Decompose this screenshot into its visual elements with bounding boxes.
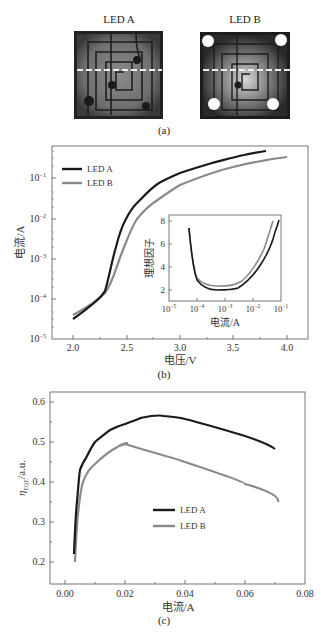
- inset-xtick: 10−2: [246, 303, 261, 314]
- c-series-led-b: [75, 443, 278, 562]
- b-ytick: 10−1: [30, 172, 46, 183]
- c-ytick: 0.5: [33, 436, 46, 447]
- b-xtick: 4.0: [281, 342, 294, 353]
- c-legend-led-a: LED A: [180, 505, 206, 515]
- c-ytick: 0.2: [33, 556, 46, 567]
- c-xtick: 0.00: [56, 588, 74, 599]
- b-xtick: 2.0: [67, 342, 80, 353]
- c-xtick: 0.08: [296, 588, 314, 599]
- inset-xtick: 10−1: [274, 303, 289, 314]
- b-legend-led-a: LED A: [87, 164, 113, 174]
- b-ylabel: 电流/A: [13, 225, 26, 258]
- c-ytick: 0.3: [33, 516, 46, 527]
- b-ytick: 10−3: [30, 253, 46, 264]
- inset-xtick: 10−5: [162, 303, 177, 314]
- c-ytick: 0.6: [33, 396, 46, 407]
- inset-ytick: 2: [161, 285, 166, 295]
- c-xlabel: 电流/A: [162, 600, 195, 613]
- chart-b-inset: 8 6 4 2 10−5 10−4 10−3 10−2 10−1 电流/A 理想…: [143, 215, 288, 328]
- b-xtick: 3.5: [227, 342, 240, 353]
- led-b-image: [200, 32, 290, 119]
- b-xtick: 2.5: [121, 342, 134, 353]
- chart-c: 0.6 0.5 0.4 0.3 0.2 0.00 0.02 0.04 0.06 …: [15, 392, 314, 613]
- inset-ylabel: 理想因子: [143, 238, 155, 278]
- c-xtick: 0.04: [176, 588, 194, 599]
- caption-b: (b): [0, 368, 328, 380]
- c-xtick: 0.06: [236, 588, 254, 599]
- b-xtick: 3.0: [174, 342, 187, 353]
- caption-c: (c): [0, 614, 328, 626]
- b-legend-led-b: LED B: [87, 178, 113, 188]
- inset-ytick: 4: [161, 262, 166, 272]
- c-xtick: 0.02: [116, 588, 134, 599]
- inset-ytick: 6: [161, 239, 166, 249]
- c-ylabel: ηEQE/a.u.: [15, 460, 29, 496]
- inset-ytick: 8: [161, 216, 166, 226]
- caption-a: (a): [0, 124, 328, 136]
- c-legend-led-b: LED B: [180, 521, 206, 531]
- figure-canvas: 10−1 10−2 10−3 10−4 10−5 2.0 2.5 3.0 3.5…: [0, 0, 328, 640]
- b-ytick: 10−5: [30, 333, 46, 344]
- inset-xtick: 10−3: [218, 303, 233, 314]
- inset-xtick: 10−4: [190, 303, 205, 314]
- led-a-image: [74, 31, 163, 119]
- inset-xlabel: 电流/A: [210, 316, 241, 328]
- b-xlabel: 电压/V: [164, 354, 197, 366]
- b-ytick: 10−2: [30, 213, 46, 224]
- c-ytick: 0.4: [33, 476, 46, 487]
- b-ytick: 10−4: [30, 293, 46, 304]
